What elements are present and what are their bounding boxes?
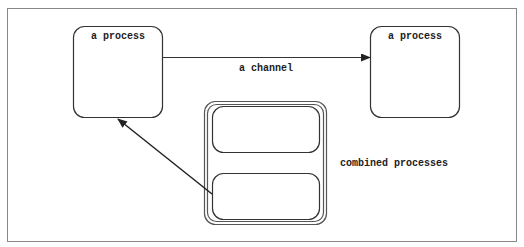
combined-processes-label: combined processes (340, 158, 448, 169)
inner-process-bottom[interactable] (213, 174, 320, 220)
channel-label: a channel (239, 63, 293, 74)
inner-process-top[interactable] (213, 107, 320, 153)
diagram-canvas (0, 0, 524, 247)
process-left-label: a process (91, 31, 145, 42)
process-right-label: a process (388, 31, 442, 42)
